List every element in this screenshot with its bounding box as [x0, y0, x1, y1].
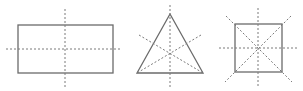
- triangle-figure: [137, 5, 203, 87]
- square-figure: [219, 8, 297, 88]
- equilateral-triangle-symmetry-line: [137, 35, 201, 73]
- square-symmetry-lines: [219, 8, 297, 88]
- rectangle-figure: [6, 9, 122, 89]
- symmetry-diagram: [0, 0, 303, 91]
- rectangle-symmetry-lines: [6, 9, 122, 89]
- triangle-symmetry-lines: [137, 5, 203, 87]
- equilateral-triangle-symmetry-line: [139, 35, 203, 73]
